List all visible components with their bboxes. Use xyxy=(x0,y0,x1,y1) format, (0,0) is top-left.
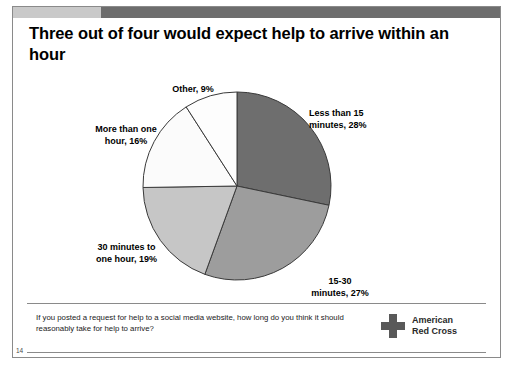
slide-canvas: Three out of four would expect help to a… xyxy=(12,6,501,358)
pie-chart: Less than 15 minutes, 28%15-30 minutes, … xyxy=(13,69,500,297)
slide-number: 14 xyxy=(16,347,23,354)
footer-divider-bottom xyxy=(27,352,486,353)
footer-divider-top xyxy=(27,303,486,304)
red-cross-icon xyxy=(381,314,405,338)
survey-question-text: If you posted a request for help to a so… xyxy=(27,307,375,335)
pie-label-30-minutes-to-one-hour: 30 minutes to one hour, 19% xyxy=(69,241,184,265)
pie-label-less-than-15-minutes: Less than 15 minutes, 28% xyxy=(309,107,409,131)
top-bar-right-accent xyxy=(101,7,500,18)
logo-wordmark: American Red Cross xyxy=(412,315,457,336)
cross-vertical-bar xyxy=(389,314,397,338)
pie-label-other: Other, 9% xyxy=(148,83,238,95)
top-bar-left-accent xyxy=(13,7,101,18)
american-red-cross-logo: American Red Cross xyxy=(381,307,457,338)
page-title: Three out of four would expect help to a… xyxy=(29,23,449,65)
footer: If you posted a request for help to a so… xyxy=(27,307,486,352)
pie-label-more-than-one-hour: More than one hour, 16% xyxy=(71,123,181,147)
slide-top-bars xyxy=(13,7,500,18)
pie-label-15-30-minutes: 15-30 minutes, 27% xyxy=(285,275,395,299)
